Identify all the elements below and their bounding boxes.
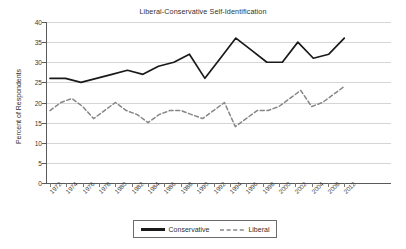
y-axis-tick-labels: 0510152025303540	[10, 0, 42, 249]
series-line-liberal	[50, 86, 344, 126]
series-line-conservative	[50, 38, 344, 82]
y-axis-tick-label: 30	[18, 59, 42, 66]
y-axis-tick-label: 5	[18, 159, 42, 166]
y-axis-tick-label: 20	[18, 99, 42, 106]
chart-legend: Conservative Liberal	[133, 220, 277, 238]
legend-swatch-liberal	[220, 228, 244, 231]
series-lines	[46, 22, 391, 183]
y-axis-tick-label: 25	[18, 79, 42, 86]
legend-swatch-conservative	[141, 228, 165, 231]
legend-entry-liberal[interactable]: Liberal	[220, 226, 269, 233]
chart-container: Liberal-Conservative Self-Identification…	[0, 0, 406, 249]
y-axis-tick-label: 10	[18, 139, 42, 146]
chart-title: Liberal-Conservative Self-Identification	[0, 7, 406, 16]
y-axis-tick-label: 40	[18, 19, 42, 26]
legend-entry-conservative[interactable]: Conservative	[141, 226, 210, 233]
y-axis-tick-label: 15	[18, 119, 42, 126]
legend-label-conservative: Conservative	[169, 226, 210, 233]
y-axis-tick-label: 0	[18, 180, 42, 187]
y-axis-tick-label: 35	[18, 39, 42, 46]
legend-label-liberal: Liberal	[248, 226, 269, 233]
